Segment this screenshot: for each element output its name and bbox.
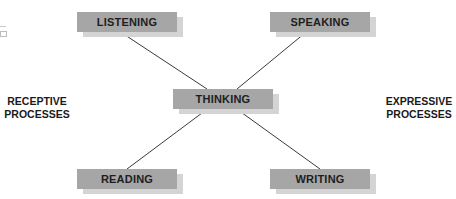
node-label-listening: LISTENING <box>77 12 177 32</box>
node-label-reading: READING <box>77 169 177 189</box>
node-reading: READING <box>77 169 177 189</box>
edge-speaking-thinking <box>237 33 305 89</box>
node-speaking: SPEAKING <box>270 12 370 32</box>
edge-thinking-writing <box>238 110 320 169</box>
node-thinking: THINKING <box>173 89 273 109</box>
node-label-speaking: SPEAKING <box>270 12 370 32</box>
receptive-line2: PROCESSES <box>4 108 70 121</box>
expressive-line2: PROCESSES <box>382 108 456 121</box>
language-processes-diagram: LISTENING SPEAKING THINKING READING WRIT… <box>0 0 456 199</box>
edge-thinking-reading <box>127 110 206 169</box>
node-label-thinking: THINKING <box>173 89 273 109</box>
expressive-processes-label: EXPRESSIVE PROCESSES <box>382 95 456 121</box>
receptive-processes-label: RECEPTIVE PROCESSES <box>4 95 70 121</box>
node-writing: WRITING <box>270 169 370 189</box>
node-label-writing: WRITING <box>270 169 370 189</box>
expressive-line1: EXPRESSIVE <box>382 95 456 108</box>
edge-listening-thinking <box>122 33 207 89</box>
node-listening: LISTENING <box>77 12 177 32</box>
receptive-line1: RECEPTIVE <box>4 95 70 108</box>
